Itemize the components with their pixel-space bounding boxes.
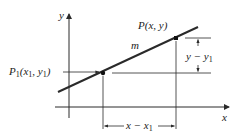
- y-axis-label: y: [59, 10, 64, 21]
- dy-label-main: y − y: [186, 50, 209, 62]
- x-axis-label: x: [222, 112, 227, 123]
- point-p1-label-end: ): [47, 65, 51, 77]
- point-p: [174, 36, 178, 40]
- point-p1-label: P1(x1, y1): [9, 66, 50, 79]
- point-p1-label-mid: , y: [32, 65, 42, 77]
- point-p1-label-name: P: [9, 65, 16, 77]
- dx-label-sub: 1: [149, 124, 153, 133]
- dy-label-sub: 1: [209, 55, 213, 64]
- dy-label: y − y1: [186, 51, 213, 64]
- point-p-label: P(x, y): [138, 20, 167, 31]
- point-p1: [101, 71, 105, 75]
- dx-label: x − x1: [126, 120, 153, 133]
- dx-label-main: x − x: [126, 119, 149, 131]
- point-p1-label-coords: (x: [20, 65, 29, 77]
- slope-label: m: [131, 40, 139, 51]
